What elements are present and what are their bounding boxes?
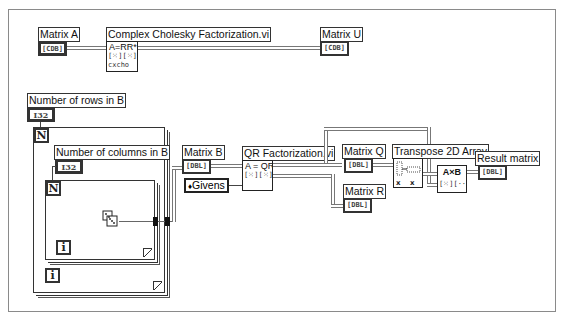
matrix-r-indicator[interactable]: [DBL] [343,198,372,213]
transpose-2d-array-node[interactable]: x x [393,158,423,188]
qr-factorization-node[interactable]: A = QR [⁙][⁙][⁙] [242,160,273,191]
random-number-node[interactable] [101,210,119,228]
wire-cols-stub [52,166,56,167]
wire-givens-to-qr [229,185,242,186]
cholesky-node[interactable]: A=RR* [⁙][⁙][⁙] cxcho [106,41,138,72]
rows-control-label: Number of rows in B [27,93,126,108]
svg-text:x: x [396,179,401,187]
cols-control-terminal[interactable]: I32 [55,159,83,174]
matrix-a-terminal[interactable]: [CDB] [38,41,67,56]
matrix-a-label: Matrix A [38,27,80,42]
transpose-icon: x x [394,159,422,187]
cholesky-icon-formula: A=RR* [107,42,137,52]
wire-q-branch-top [324,127,431,131]
inner-loop-iteration-terminal: i [56,240,71,255]
givens-ring-constant[interactable]: ♦Givens [184,178,229,193]
wire-array-up [172,166,176,222]
multiply-icon-formula: A×B [438,166,466,177]
wire-r-down [331,174,335,208]
wire-qr-to-q [273,163,342,167]
qr-icon-formula: A = QR [243,161,272,171]
wire-q-branch-up [324,127,328,166]
rows-control-terminal[interactable]: I32 [27,107,55,122]
wire-matrix-a [67,46,106,50]
inner-loop-count-terminal[interactable]: N [46,181,61,196]
loop-resize-corner-icon[interactable] [153,281,162,290]
outer-loop-iteration-terminal: i [45,268,60,283]
givens-label: Givens [192,179,225,191]
matrix-b-indicator[interactable]: [DBL] [182,159,211,174]
cols-control-label: Number of columns in B [54,145,170,160]
result-matrix-indicator[interactable]: [DBL] [478,165,507,180]
outer-loop-tunnel [165,217,170,226]
wire-qr-to-r [273,174,335,178]
matrix-glyph-icon: [⁙][⁙][⁙] [243,171,272,180]
wire-r-in [331,204,343,208]
wire-cholesky-to-u [138,46,321,50]
cholesky-node-label: Complex Cholesky Factorization.vi [106,27,271,42]
outer-loop-count-terminal[interactable]: N [34,128,49,143]
qr-node-label: QR Factorization.vi [242,146,335,161]
wire-q-to-transpose [373,163,393,167]
matrix-u-indicator[interactable]: [CDB] [320,41,349,56]
wire-q-to-multiply [427,183,437,187]
matrix-multiply-node[interactable]: A×B [⁙][··][⁙] [437,165,467,193]
wire-array-to-b [172,166,182,170]
loop-resize-corner-icon[interactable] [143,248,152,257]
wire-transpose-to-multiply [423,172,437,176]
result-matrix-label: Result matrix [475,151,540,166]
matrix-u-label: Matrix U [320,27,363,42]
inner-for-loop[interactable]: N i [45,180,155,260]
matrix-q-indicator[interactable]: [DBL] [344,158,373,173]
svg-text:x: x [410,179,415,187]
matrix-glyph-icon: [⁙][⁙][⁙] [107,52,137,61]
matrix-b-label: Matrix B [182,145,225,160]
matrix-r-label: Matrix R [343,184,386,199]
wire-b-to-qr [211,164,242,168]
matrix-glyph-icon: [⁙][··][⁙] [438,177,466,189]
matrix-q-label: Matrix Q [342,144,386,159]
dice-icon [101,210,119,228]
inner-loop-tunnel [153,217,158,226]
cholesky-icon-text: cxcho [107,61,137,70]
